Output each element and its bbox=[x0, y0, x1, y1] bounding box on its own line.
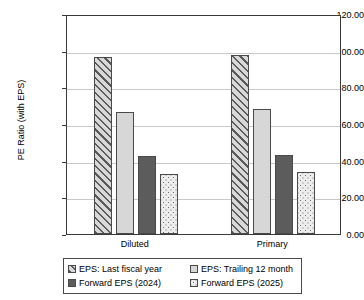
bar-chart: PE Ratio (with EPS) 0.0020.0040.0060.008… bbox=[0, 0, 364, 300]
legend: EPS: Last fiscal year EPS: Trailing 12 m… bbox=[63, 258, 302, 294]
bar bbox=[160, 174, 178, 234]
legend-item-label: EPS: Last fiscal year bbox=[79, 264, 162, 274]
legend-swatch-icon bbox=[68, 265, 76, 273]
legend-row: EPS: Last fiscal year EPS: Trailing 12 m… bbox=[68, 262, 297, 276]
legend-item-label: Forward EPS (2024) bbox=[79, 278, 161, 288]
bar bbox=[253, 109, 271, 234]
legend-item-eps-last-fiscal-year[interactable]: EPS: Last fiscal year bbox=[68, 264, 190, 274]
y-axis-title: PE Ratio (with EPS) bbox=[16, 45, 26, 195]
bar bbox=[116, 112, 134, 234]
legend-item-forward-eps-2024[interactable]: Forward EPS (2024) bbox=[68, 278, 190, 288]
bar bbox=[231, 55, 249, 234]
gridline bbox=[67, 53, 340, 54]
x-axis-category-label: Diluted bbox=[121, 239, 149, 249]
x-axis-category-label: Primary bbox=[257, 239, 288, 249]
legend-item-label: Forward EPS (2025) bbox=[201, 278, 283, 288]
legend-row: Forward EPS (2024) Forward EPS (2025) bbox=[68, 276, 297, 290]
bar bbox=[275, 155, 293, 234]
y-axis-tick-mark bbox=[62, 235, 66, 236]
bar bbox=[138, 156, 156, 234]
legend-swatch-icon bbox=[68, 279, 76, 287]
legend-item-label: EPS: Trailing 12 month bbox=[201, 264, 293, 274]
legend-item-forward-eps-2025[interactable]: Forward EPS (2025) bbox=[190, 278, 297, 288]
bar bbox=[297, 172, 315, 234]
legend-swatch-icon bbox=[190, 279, 198, 287]
bar bbox=[94, 57, 112, 234]
legend-item-eps-trailing-12-month[interactable]: EPS: Trailing 12 month bbox=[190, 264, 297, 274]
plot-area bbox=[66, 15, 341, 235]
legend-swatch-icon bbox=[190, 265, 198, 273]
